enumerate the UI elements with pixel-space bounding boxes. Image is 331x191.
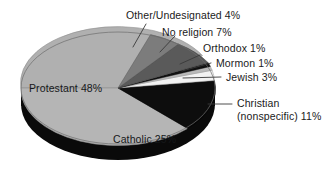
label-protestant: Protestant 48% <box>29 82 102 95</box>
label-catholic: Catholic 25% <box>113 133 176 146</box>
label-no-religion: No religion 7% <box>162 26 232 39</box>
label-other-undesignated: Other/Undesignated 4% <box>126 9 240 22</box>
label-jewish: Jewish 3% <box>226 71 277 84</box>
label-mormon: Mormon 1% <box>216 57 274 70</box>
label-christian-line2: (nonspecific) 11% <box>237 110 321 122</box>
label-christian-line1: Christian <box>237 97 279 109</box>
label-christian-nonspecific: Christian (nonspecific) 11% <box>237 97 331 123</box>
pie-chart: Other/Undesignated 4% No religion 7% Ort… <box>0 0 331 191</box>
label-orthodox: Orthodox 1% <box>203 42 265 55</box>
